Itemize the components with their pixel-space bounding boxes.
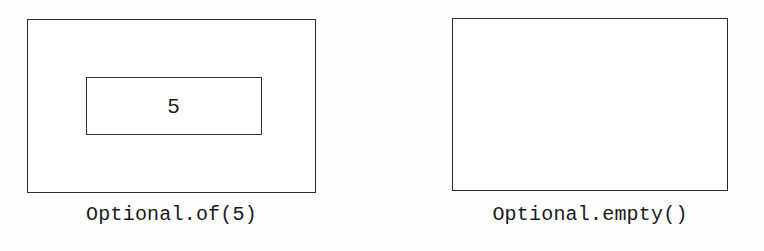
optional-present-container: 5: [27, 19, 316, 193]
optional-empty-caption: Optional.empty(): [452, 203, 728, 227]
optional-present-caption: Optional.of(5): [27, 203, 316, 227]
optional-present-value-box: 5: [86, 77, 262, 135]
optional-empty-container: [452, 18, 728, 191]
figure-canvas: 5 Optional.of(5) Optional.empty(): [0, 0, 764, 251]
optional-present-value-text: 5: [87, 78, 261, 134]
